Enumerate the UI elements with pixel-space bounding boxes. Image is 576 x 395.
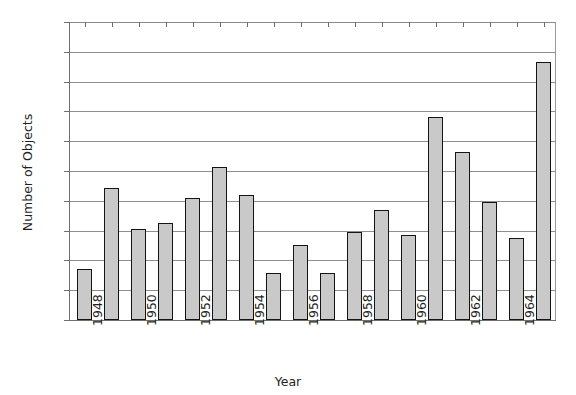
bar [158,223,173,320]
x-tick [409,22,410,27]
bar [536,62,551,320]
y-axis-title: Number of Objects [20,83,35,263]
x-tick [274,22,275,27]
plot-area [69,22,556,321]
x-tick [355,22,356,27]
x-tick [517,22,518,27]
x-tick [112,22,113,27]
x-tick [544,22,545,27]
x-tick-label: 1962 [468,294,483,326]
x-tick [436,22,437,27]
bar [428,117,443,320]
x-tick-label: 1964 [522,294,537,326]
chart-figure: Number of Objects 0100200300400500600700… [0,0,576,395]
x-tick-label: 1948 [90,294,105,326]
x-tick [382,22,383,27]
x-tick [166,22,167,27]
x-tick-label: 1960 [414,294,429,326]
bar [104,188,119,320]
bar-series [70,22,556,320]
bar [482,202,497,320]
x-tick-label: 1956 [306,294,321,326]
x-tick-label: 1958 [360,294,375,326]
x-axis-title: Year [0,374,576,389]
bar [374,210,389,320]
x-tick [139,22,140,27]
bar [212,167,227,320]
x-tick-label: 1950 [144,294,159,326]
x-tick [463,22,464,27]
x-tick [247,22,248,27]
bar [320,273,335,320]
x-tick [490,22,491,27]
x-tick [85,22,86,27]
x-tick [193,22,194,27]
x-tick [301,22,302,27]
bar [266,273,281,320]
x-tick-label: 1952 [198,294,213,326]
x-tick [220,22,221,27]
y-tick [64,320,70,321]
x-tick [328,22,329,27]
x-tick-label: 1954 [252,294,267,326]
